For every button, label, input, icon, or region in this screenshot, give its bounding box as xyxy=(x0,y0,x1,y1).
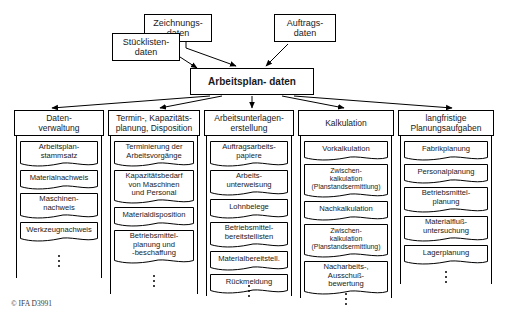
diagram-canvas: Zeichnungs- daten Stücklisten- daten Auf… xyxy=(0,0,505,320)
item-card: Materialdisposition xyxy=(114,207,194,227)
item-card-label: Materialbereitstell. xyxy=(210,251,288,267)
item-card-label: Materialdisposition xyxy=(114,207,194,223)
central-box-label: Arbeitsplan- daten xyxy=(191,76,313,87)
item-card-label: Zwischen- kalkulation (Planstandsermittl… xyxy=(304,164,388,194)
item-card: Arbeits- unterweisung xyxy=(210,170,288,196)
item-card: Zwischen- kalkulation (Planstandsermittl… xyxy=(304,224,388,258)
source-label: Stücklisten- daten xyxy=(113,37,179,57)
more-items-ellipsis xyxy=(244,282,254,300)
item-card: Materialfluß- untersuchung xyxy=(404,216,488,242)
item-card-label: Kapazitätsbedarf von Maschinen und Perso… xyxy=(114,170,194,200)
category-header-label: Arbeitsunterlagen- erstellung xyxy=(214,113,283,133)
category-header-datenverwaltung: Daten- verwaltung xyxy=(14,110,104,136)
item-card: Arbeitsplan- stammsatz xyxy=(20,141,98,167)
item-card: Betriebsmittel- planung xyxy=(404,187,488,213)
source-label: Auftrags- daten xyxy=(275,18,335,38)
central-box-arbeitsplandaten: Arbeitsplan- daten xyxy=(190,68,314,95)
category-header-kalkulation: Kalkulation xyxy=(298,110,394,136)
item-card: Lohnbelege xyxy=(210,199,288,219)
item-card-label: Werkzeugnachweis xyxy=(20,222,98,238)
more-items-ellipsis xyxy=(149,272,159,290)
item-card-label: Maschinen- nachweis xyxy=(20,193,98,215)
item-card: Materialbereitstell. xyxy=(210,251,288,271)
item-card-label: Vorkalkulation xyxy=(304,141,388,157)
item-card-label: Fabrikplanung xyxy=(404,141,488,157)
figure-credit: © IFA D3991 xyxy=(11,299,52,308)
item-card: Terminierung der Arbeitsvorgänge xyxy=(114,141,194,167)
more-items-ellipsis xyxy=(54,252,64,270)
item-card: Materialnachweis xyxy=(20,170,98,190)
item-card-label: Betriebsmittel- bereitstellisten xyxy=(210,222,288,244)
item-card: Vorkalkulation xyxy=(304,141,388,161)
item-card: Personalplanung xyxy=(404,164,488,184)
category-header-arbeitsunterlagenerstellung: Arbeitsunterlagen- erstellung xyxy=(204,110,294,136)
item-card: Betriebsmittel- planung und -beschaffung xyxy=(114,230,194,264)
item-card-label: Auftragsarbeits- papiere xyxy=(210,141,288,163)
item-card-label: Lagerplanung xyxy=(404,245,488,261)
item-card-label: Nacharbeits-, Ausschuß- bewertung xyxy=(304,261,388,291)
category-header-langfristige-planungsaufgaben: langfristige Planungsaufgaben xyxy=(398,110,494,136)
category-header-label: Termin-, Kapazitäts- planung, Dispositio… xyxy=(116,113,193,133)
source-box-auftragsdaten: Auftrags- daten xyxy=(274,14,336,42)
item-card: Kapazitätsbedarf von Maschinen und Perso… xyxy=(114,170,194,204)
item-card-label: Arbeits- unterweisung xyxy=(210,170,288,192)
item-card-label: Nachkalkulation xyxy=(304,201,388,217)
more-items-ellipsis xyxy=(441,268,451,286)
item-card-label: Materialnachweis xyxy=(20,170,98,186)
category-header-label: Kalkulation xyxy=(325,118,367,128)
item-card: Fabrikplanung xyxy=(404,141,488,161)
item-card-label: Personalplanung xyxy=(404,164,488,180)
item-card: Zwischen- kalkulation (Planstandsermittl… xyxy=(304,164,388,198)
item-card: Lagerplanung xyxy=(404,245,488,265)
item-card-label: Betriebsmittel- planung und -beschaffung xyxy=(114,230,194,260)
item-card: Maschinen- nachweis xyxy=(20,193,98,219)
category-header-label: Daten- verwaltung xyxy=(38,113,79,133)
item-card: Werkzeugnachweis xyxy=(20,222,98,242)
item-card-label: Zwischen- kalkulation (Planstandsermittl… xyxy=(304,224,388,254)
item-card: Betriebsmittel- bereitstellisten xyxy=(210,222,288,248)
item-card-label: Arbeitsplan- stammsatz xyxy=(20,141,98,163)
more-items-ellipsis xyxy=(341,290,351,308)
item-card-label: Lohnbelege xyxy=(210,199,288,215)
item-card-label: Materialfluß- untersuchung xyxy=(404,216,488,238)
item-card: Nachkalkulation xyxy=(304,201,388,221)
item-card-label: Terminierung der Arbeitsvorgänge xyxy=(114,141,194,163)
item-card-label: Betriebsmittel- planung xyxy=(404,187,488,209)
category-header-label: langfristige Planungsaufgaben xyxy=(411,113,482,133)
category-header-termin-kapazitaetsplanung: Termin-, Kapazitäts- planung, Dispositio… xyxy=(108,110,200,136)
item-card: Auftragsarbeits- papiere xyxy=(210,141,288,167)
source-box-stuecklistendaten: Stücklisten- daten xyxy=(112,33,180,61)
